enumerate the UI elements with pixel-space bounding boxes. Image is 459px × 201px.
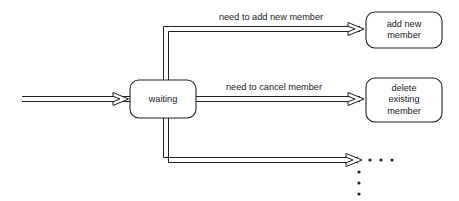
state-add-new-member-label: add new member — [366, 12, 442, 48]
state-delete-existing-member-label-line-3: member — [387, 106, 421, 118]
more-transition-line-outer — [164, 118, 359, 158]
horizontal-ellipsis-icon — [368, 158, 393, 161]
transition-label-add-new-member: need to add new member — [196, 12, 346, 22]
add-transition-line-inner — [169, 32, 361, 81]
transition-add-new-member — [164, 23, 365, 81]
entry-arrowhead-icon — [113, 93, 129, 106]
transition-cancel-member — [196, 93, 364, 106]
state-delete-existing-member-label-line-2: existing — [388, 94, 419, 106]
add-transition-line-outer — [164, 27, 361, 81]
state-delete-existing-member-label: delete existing member — [366, 78, 442, 122]
more-transition-arrowhead-icon — [346, 154, 362, 167]
cancel-transition-arrowhead-icon — [348, 93, 364, 106]
transition-label-cancel-member: need to cancel member — [199, 82, 349, 92]
transition-entry — [22, 93, 146, 106]
state-delete-existing-member-label-line-1: delete — [391, 83, 416, 95]
transition-more — [164, 118, 363, 167]
state-add-new-member-label-line-1: add new — [387, 19, 422, 31]
state-waiting-label: waiting — [130, 80, 196, 118]
state-transition-diagram: waiting add new member delete existing m… — [0, 0, 459, 201]
add-transition-arrowhead-icon — [348, 23, 364, 36]
vertical-ellipsis-icon — [357, 170, 360, 195]
state-add-new-member-label-line-2: member — [387, 30, 421, 42]
more-transition-line-inner — [169, 118, 359, 163]
